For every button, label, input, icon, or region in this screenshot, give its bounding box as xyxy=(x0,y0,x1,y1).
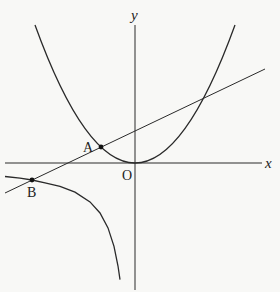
origin-label: O xyxy=(122,168,132,183)
y-axis-label: y xyxy=(129,7,138,23)
hyperbola-curve xyxy=(5,177,120,280)
graph-canvas: y x O A B xyxy=(0,0,280,292)
point-B-label: B xyxy=(27,185,36,200)
x-axis-label: x xyxy=(264,155,272,171)
point-B-marker xyxy=(30,178,35,183)
point-A-label: A xyxy=(83,140,94,155)
point-A-marker xyxy=(99,145,104,150)
graph-figure: y x O A B xyxy=(0,0,280,292)
